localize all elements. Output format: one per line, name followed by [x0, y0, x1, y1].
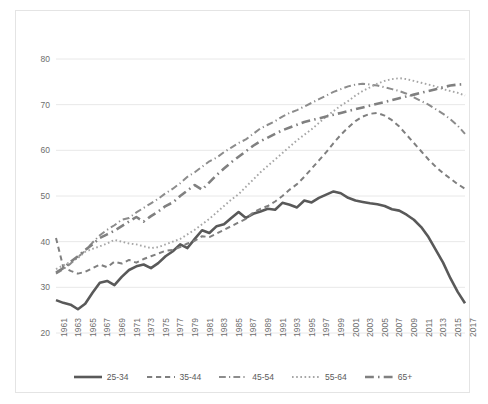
chart-legend: 25-3435-4445-5455-6465+: [15, 372, 470, 382]
x-axis-tick-label: 1995: [308, 318, 316, 337]
x-axis-tick-label: 1985: [235, 318, 243, 337]
x-axis-tick-label: 2015: [454, 318, 462, 337]
plot-area: 2030405060708019611963196519671969197119…: [16, 11, 469, 392]
x-axis-tick-label: 2005: [381, 318, 389, 337]
x-axis-tick-label: 1979: [191, 318, 199, 337]
x-axis-tick-label: 1981: [206, 318, 214, 337]
x-axis-tick-label: 1989: [264, 318, 272, 337]
x-axis-tick-label: 2007: [395, 318, 403, 337]
legend-item-35-44[interactable]: 35-44: [146, 372, 202, 382]
x-axis-tick-label: 2001: [352, 318, 360, 337]
x-axis-tick-label: 2013: [439, 318, 447, 337]
legend-swatch-icon: [218, 372, 248, 382]
y-axis-tick-label: 70: [28, 101, 50, 109]
legend-swatch-icon: [364, 372, 394, 382]
legend-item-65+[interactable]: 65+: [364, 372, 412, 382]
legend-item-55-64[interactable]: 55-64: [291, 372, 347, 382]
x-axis-tick-label: 1977: [176, 318, 184, 337]
legend-swatch-icon: [146, 372, 176, 382]
x-axis-tick-label: 2003: [366, 318, 374, 337]
x-axis-tick-label: 1987: [249, 318, 257, 337]
x-axis-tick-label: 1997: [322, 318, 330, 337]
x-axis-tick-label: 1963: [74, 318, 82, 337]
x-axis-tick-label: 1991: [279, 318, 287, 337]
legend-label: 25-34: [107, 372, 129, 382]
x-axis-tick-label: 1999: [337, 318, 345, 337]
legend-item-25-34[interactable]: 25-34: [73, 372, 129, 382]
legend-label: 45-54: [252, 372, 274, 382]
series-line-35-44: [56, 113, 465, 274]
x-axis-tick-label: 1975: [162, 318, 170, 337]
x-axis-tick-label: 1961: [60, 318, 68, 337]
y-axis-tick-label: 80: [28, 55, 50, 63]
series-line-65+: [56, 84, 465, 273]
x-axis-tick-label: 1969: [118, 318, 126, 337]
x-axis-tick-label: 1993: [293, 318, 301, 337]
legend-label: 35-44: [180, 372, 202, 382]
series-line-55-64: [56, 78, 465, 269]
chart-container: 2030405060708019611963196519671969197119…: [15, 10, 470, 393]
legend-label: 55-64: [325, 372, 347, 382]
x-axis-tick-label: 1983: [220, 318, 228, 337]
series-line-45-54: [56, 84, 465, 274]
y-axis-tick-label: 30: [28, 283, 50, 291]
x-axis-tick-label: 2017: [469, 318, 477, 337]
y-axis-tick-label: 60: [28, 146, 50, 154]
y-axis-tick-label: 50: [28, 192, 50, 200]
legend-item-45-54[interactable]: 45-54: [218, 372, 274, 382]
x-axis-tick-label: 1973: [147, 318, 155, 337]
legend-label: 65+: [398, 372, 412, 382]
x-axis-tick-label: 2009: [410, 318, 418, 337]
x-axis-tick-label: 1967: [103, 318, 111, 337]
y-axis-tick-label: 40: [28, 238, 50, 246]
x-axis-tick-label: 1971: [133, 318, 141, 337]
x-axis-tick-label: 1965: [89, 318, 97, 337]
y-axis-tick-label: 20: [28, 329, 50, 337]
x-axis-tick-label: 2011: [425, 319, 433, 337]
legend-swatch-icon: [291, 372, 321, 382]
legend-swatch-icon: [73, 372, 103, 382]
